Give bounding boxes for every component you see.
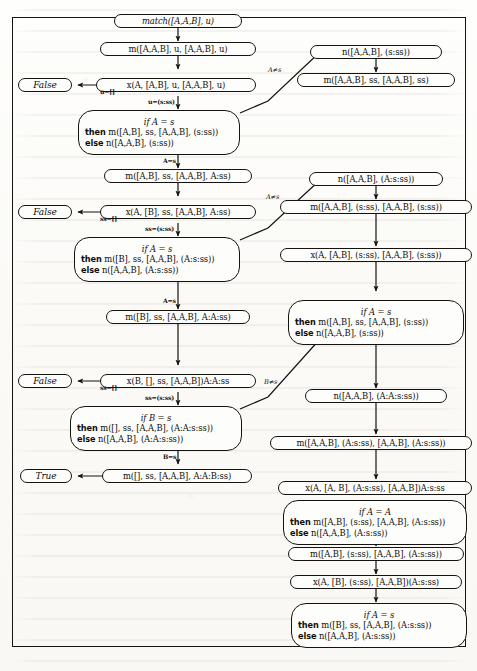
else-keyword: else bbox=[290, 528, 308, 538]
then-expr: m([], ss, [A,A,B], (A:A:s:ss)) bbox=[100, 423, 213, 433]
else-line: else n([A,A,B], (s:ss)) bbox=[85, 138, 233, 149]
then-expr: m([A,B], ss, [A,A,B], (s:ss)) bbox=[108, 127, 218, 137]
node-if-block-1[interactable]: if A = s then m([A,B], ss, [A,A,B], (s:s… bbox=[78, 110, 240, 155]
node-text: n([A,A,B], (s:ss)) bbox=[316, 47, 436, 58]
node-text: n([A,A,B], (A:s:ss)) bbox=[315, 174, 437, 185]
then-expr: m([B], ss, [A,A,B], (A:s:ss)) bbox=[104, 254, 214, 264]
else-line: else n([A,A,B], (A:s:ss)) bbox=[81, 265, 233, 276]
then-line: then m([B], ss, [A,A,B], (A:s:ss)) bbox=[81, 254, 233, 265]
node-x-call-3[interactable]: x(B, [], ss, [A,A,B])A:A:ss bbox=[100, 374, 256, 388]
node-m-call-r4[interactable]: m([A,B], (s:ss), [A,A,B], (A:s:ss)) bbox=[288, 547, 464, 561]
node-if-block-3[interactable]: if B = s then m([], ss, [A,A,B], (A:A:s:… bbox=[70, 406, 242, 451]
node-m-call-1[interactable]: m([A,A,B], u, [A,A,B], u) bbox=[100, 42, 256, 56]
node-false-3[interactable]: False bbox=[18, 374, 72, 388]
node-text: x(A, [A,B], u, [A,A,B], u) bbox=[102, 80, 250, 91]
node-text: x(A, [A, B], (A:s:ss), [A,A,B])A:s:ss bbox=[284, 483, 466, 494]
node-if-block-r3[interactable]: if A = s then m([B], ss, [A,A,B], (A:s:s… bbox=[291, 603, 467, 648]
node-text: x(A, [B], (s:ss), [A,A,B])(A:s:ss) bbox=[296, 577, 456, 588]
edge-label-a-neq-s-1: A≠s bbox=[268, 66, 281, 74]
node-m-call-r3[interactable]: m([A,A,B], (A:s:ss), [A,A,B], (A:s:ss)) bbox=[270, 436, 472, 450]
else-keyword: else bbox=[298, 631, 316, 641]
edge-label-b-eq-s: B=s bbox=[163, 453, 176, 460]
if-line: if A = s bbox=[295, 307, 457, 318]
edge-label-ss-nil-2: ss=[] bbox=[100, 384, 117, 391]
else-line: else n([A,A,B], (s:ss)) bbox=[295, 328, 457, 339]
then-keyword: then bbox=[81, 254, 102, 264]
edge-label-ss-cons-1: ss=(s:ss) bbox=[145, 225, 174, 232]
else-line: else n([A,A,B], (A:A:s:ss)) bbox=[77, 434, 235, 445]
node-text: m([A,A,B], ss, [A,A,B], ss) bbox=[303, 75, 449, 86]
node-text: False bbox=[24, 376, 66, 387]
then-expr: m([A,B], (s:ss), [A,A,B], (A:s:ss)) bbox=[313, 517, 445, 527]
then-expr: m([B], ss, [A,A,B], (A:s:ss)) bbox=[321, 620, 431, 630]
if-line: if A = A bbox=[290, 507, 460, 518]
node-false-2[interactable]: False bbox=[18, 205, 72, 219]
else-expr: n([A,A,B], (s:ss)) bbox=[106, 138, 174, 148]
if-line: if A = s bbox=[85, 117, 233, 128]
then-expr: m([A,B], ss, [A,A,B], (s:ss)) bbox=[318, 317, 428, 327]
node-text: False bbox=[24, 207, 66, 218]
node-text: m([B], ss, [A,A,B], A:A:ss) bbox=[112, 312, 244, 323]
then-line: then m([A,B], (s:ss), [A,A,B], (A:s:ss)) bbox=[290, 517, 460, 528]
node-text: x(B, [], ss, [A,A,B])A:A:ss bbox=[106, 376, 250, 387]
node-if-block-2[interactable]: if A = s then m([B], ss, [A,A,B], (A:s:s… bbox=[74, 237, 240, 282]
else-keyword: else bbox=[77, 434, 95, 444]
else-line: else n([A,A,B], (A:s:ss)) bbox=[290, 528, 460, 539]
node-n-call-3[interactable]: n([A,A,B], (A:A:s:ss)) bbox=[305, 389, 447, 403]
then-line: then m([], ss, [A,A,B], (A:A:s:ss)) bbox=[77, 423, 235, 434]
if-line: if A = s bbox=[298, 610, 460, 621]
then-line: then m([B], ss, [A,A,B], (A:s:ss)) bbox=[298, 620, 460, 631]
node-x-call-r1[interactable]: x(A, [A,B], (s:ss), [A,A,B], (s:ss)) bbox=[280, 248, 472, 262]
if-line: if B = s bbox=[77, 413, 235, 424]
edge-label-a-eq-s-1: A=s bbox=[163, 157, 176, 164]
else-keyword: else bbox=[85, 138, 103, 148]
edge-label-a-neq-s-2: A≠s bbox=[266, 193, 279, 201]
node-match-root[interactable]: match([A,A,B], u) bbox=[114, 14, 242, 28]
then-line: then m([A,B], ss, [A,A,B], (s:ss)) bbox=[85, 127, 233, 138]
else-expr: n([A,A,B], (s:ss)) bbox=[316, 328, 384, 338]
then-keyword: then bbox=[290, 517, 311, 527]
node-text: m([A,B], ss, [A,A,B], A:ss) bbox=[110, 171, 246, 182]
node-text: False bbox=[24, 80, 66, 91]
node-text: m([A,B], (s:ss), [A,A,B], (A:s:ss)) bbox=[294, 549, 458, 560]
else-keyword: else bbox=[81, 265, 99, 275]
node-x-call-r2[interactable]: x(A, [A, B], (A:s:ss), [A,A,B])A:s:ss bbox=[278, 481, 472, 495]
node-m-call-3[interactable]: m([B], ss, [A,A,B], A:A:ss) bbox=[106, 310, 250, 324]
node-false-1[interactable]: False bbox=[18, 78, 72, 92]
edge-label-ss-cons-2: ss=(s:ss) bbox=[145, 394, 174, 401]
edge-label-u-cons: u=(s:ss) bbox=[148, 98, 175, 105]
node-n-call-2[interactable]: n([A,A,B], (A:s:ss)) bbox=[309, 172, 443, 186]
else-expr: n([A,A,B], (A:s:ss)) bbox=[311, 528, 387, 538]
node-x-call-r3[interactable]: x(A, [B], (s:ss), [A,A,B])(A:s:ss) bbox=[290, 575, 462, 589]
then-keyword: then bbox=[77, 423, 98, 433]
else-expr: n([A,A,B], (A:s:ss)) bbox=[319, 631, 395, 641]
node-n-call-1[interactable]: n([A,A,B], (s:ss)) bbox=[310, 45, 442, 59]
node-text: match([A,A,B], u) bbox=[120, 16, 236, 27]
else-expr: n([A,A,B], (A:A:s:ss)) bbox=[98, 434, 183, 444]
edge-label-ss-nil-1: ss=[] bbox=[100, 215, 117, 222]
then-keyword: then bbox=[85, 127, 106, 137]
node-x-call-1[interactable]: x(A, [A,B], u, [A,A,B], u) bbox=[96, 78, 256, 92]
then-keyword: then bbox=[295, 317, 316, 327]
then-keyword: then bbox=[298, 620, 319, 630]
edge-label-a-eq-s-2: A=s bbox=[163, 297, 176, 304]
node-text: m([A,A,B], u, [A,A,B], u) bbox=[106, 44, 250, 55]
node-m-call-r2[interactable]: m([A,A,B], (s:ss), [A,A,B], (s:ss)) bbox=[280, 200, 472, 214]
node-if-block-r1[interactable]: if A = s then m([A,B], ss, [A,A,B], (s:s… bbox=[288, 300, 464, 345]
node-text: n([A,A,B], (A:A:s:ss)) bbox=[311, 391, 441, 402]
else-line: else n([A,A,B], (A:s:ss)) bbox=[298, 631, 460, 642]
node-text: True bbox=[26, 471, 66, 482]
node-text: x(A, [B], ss, [A,A,B], A:ss) bbox=[106, 207, 250, 218]
node-m-call-2[interactable]: m([A,B], ss, [A,A,B], A:ss) bbox=[104, 169, 252, 183]
if-line: if A = s bbox=[81, 244, 233, 255]
node-true-1[interactable]: True bbox=[20, 469, 72, 483]
node-x-call-2[interactable]: x(A, [B], ss, [A,A,B], A:ss) bbox=[100, 205, 256, 219]
node-if-block-r2[interactable]: if A = A then m([A,B], (s:ss), [A,A,B], … bbox=[283, 500, 467, 545]
edge-label-u-nil: u=[] bbox=[100, 88, 115, 95]
then-line: then m([A,B], ss, [A,A,B], (s:ss)) bbox=[295, 317, 457, 328]
node-m-call-4[interactable]: m([], ss, [A,A,B], A:A:B:ss) bbox=[102, 469, 252, 483]
node-text: x(A, [A,B], (s:ss), [A,A,B], (s:ss)) bbox=[286, 250, 466, 261]
node-text: m([A,A,B], (s:ss), [A,A,B], (s:ss)) bbox=[286, 202, 466, 213]
edge-label-b-neq-s: B≠s bbox=[264, 378, 277, 386]
node-m-call-r1[interactable]: m([A,A,B], ss, [A,A,B], ss) bbox=[297, 73, 455, 87]
